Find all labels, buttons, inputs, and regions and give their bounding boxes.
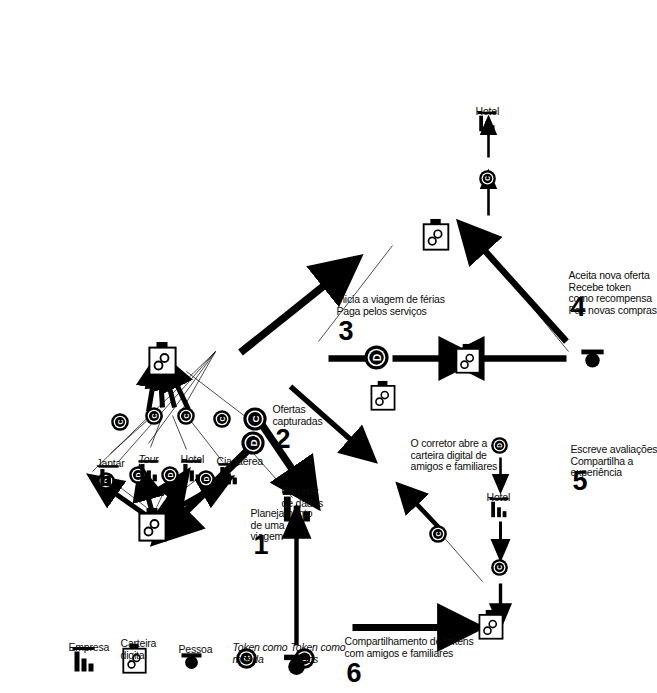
svg-text:C: C <box>218 416 225 421</box>
step-text-4: Aceita nova oferta Recebe token como rec… <box>568 269 656 315</box>
friend-coin-token-icon: C <box>490 558 508 576</box>
svg-text:D: D <box>202 476 209 481</box>
step-text-6: Compartilhamento de tokens com amigos e … <box>344 635 473 658</box>
step-text-5: Escreve avaliações Compartilha a experiê… <box>570 443 657 478</box>
offers-wallet-icon <box>148 341 176 375</box>
provider-label-dinner: Jantar <box>96 457 124 469</box>
svg-text:D: D <box>248 439 259 446</box>
share-coin-token-icon: C <box>428 524 447 543</box>
step2-coin-token-icon: C <box>242 406 267 431</box>
step-text-1: Planejamento de uma viagem <box>250 507 312 542</box>
svg-text:C: C <box>434 531 441 536</box>
step1-data-token-icon: D <box>240 430 265 455</box>
svg-text:D: D <box>166 472 173 477</box>
provider-label-tour: Tour <box>138 453 158 465</box>
step-number-2: 2 <box>275 425 290 452</box>
step-text-2: Ofertas capturadas <box>272 403 322 426</box>
step-number-3: 3 <box>338 317 353 344</box>
annotation-broker-opens-wallet: O corretor abre a carteira digital de am… <box>410 437 497 472</box>
svg-text:D: D <box>371 353 382 360</box>
provider-label-airline: Cia. aérea <box>216 455 262 467</box>
legend-label-empresa: Empresa <box>68 641 109 653</box>
coin-token-airline-icon: C <box>212 409 231 428</box>
person-traveler-bottom-icon <box>580 344 604 368</box>
coin-token-tour-icon: C <box>144 406 163 425</box>
step-text-3: Inicia a viagem de férias Paga pelos ser… <box>336 293 444 316</box>
hairline-person-to-offer-wallet <box>478 241 568 351</box>
coin-token-dinner-icon: C <box>110 412 129 431</box>
review-wallet-icon <box>455 343 480 373</box>
svg-text:C: C <box>116 419 123 424</box>
coin-token-hotel-icon: C <box>176 406 195 425</box>
svg-text:C: C <box>250 415 261 422</box>
arrow-broker-to-trip-wallet <box>240 276 335 352</box>
legend-label-token-dados: Token como dados <box>290 641 345 664</box>
svg-text:C: C <box>182 413 189 418</box>
hotel-label-service: Hotel <box>475 105 499 117</box>
friend-family-wallet-icon <box>478 609 503 639</box>
service-wallet-icon <box>422 218 449 250</box>
legend-label-token-moeda: Token como moeda <box>232 641 287 664</box>
provider-label-hotel: Hotel <box>180 453 204 465</box>
legend-label-pessoa: Pessoa <box>178 643 212 655</box>
provider-wallet-icon <box>138 507 166 541</box>
legend-label-carteira-digital: Carteira digital <box>120 637 156 660</box>
service-coin-token-icon: C <box>478 169 496 187</box>
step-number-6: 6 <box>346 659 361 686</box>
hub-label-corretor-de-dados: Corretor de dados <box>281 485 323 508</box>
mid-data-token-icon: D <box>363 344 389 370</box>
friends-wallet-icon <box>370 380 395 410</box>
data-token-hotel-icon: D <box>160 465 179 484</box>
arrow-person-to-offer-wallet <box>476 241 566 341</box>
svg-text:C: C <box>150 413 157 418</box>
hotel-label-friend: Hotel <box>486 491 510 503</box>
